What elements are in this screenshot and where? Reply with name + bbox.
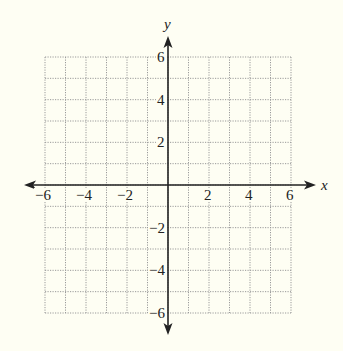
x-tick-label: 2 — [204, 187, 212, 203]
y-tick-label: −6 — [149, 305, 165, 321]
y-tick-label: 2 — [157, 134, 165, 150]
x-tick-label: −2 — [117, 187, 133, 203]
axes: x y — [24, 16, 328, 335]
y-tick-label: 6 — [157, 49, 165, 65]
y-tick-label: −4 — [149, 262, 165, 278]
x-tick-label: −4 — [76, 187, 92, 203]
x-axis-label: x — [320, 177, 328, 193]
y-tick-label: −2 — [149, 220, 165, 236]
y-tick-label: 4 — [157, 92, 165, 108]
x-tick-label: 6 — [286, 187, 294, 203]
x-tick-label: 4 — [245, 187, 253, 203]
coordinate-plane: x y −6−4−2246−6−4−2246 — [0, 0, 343, 351]
x-tick-label: −6 — [35, 187, 51, 203]
y-axis-label: y — [162, 16, 171, 32]
